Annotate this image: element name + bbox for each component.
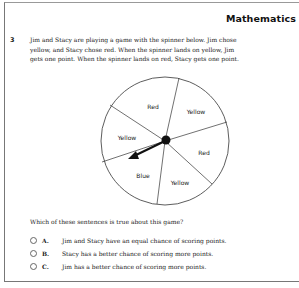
stem-line: Jim and Stacy are playing a game with th… xyxy=(30,35,290,45)
choice-text: Jim and Stacy have an equal chance of sc… xyxy=(62,237,226,244)
choice-text: Stacy has a better chance of scoring mor… xyxy=(62,250,213,257)
choice-letter: C. xyxy=(42,263,62,270)
subject-title: Mathematics xyxy=(226,13,296,24)
section-label: Yellow xyxy=(170,179,190,186)
question-number: 3 xyxy=(10,36,15,44)
section-label: Yellow xyxy=(186,108,206,115)
radio-icon[interactable] xyxy=(30,237,37,244)
question-prompt: Which of these sentences is true about t… xyxy=(30,218,183,225)
choice-text: Jim has a better chance of scoring more … xyxy=(62,263,206,270)
section-label: Blue xyxy=(136,172,150,179)
section-label: Red xyxy=(147,103,159,110)
choice-letter: A. xyxy=(42,237,62,244)
choice-letter: B. xyxy=(42,250,62,257)
question-stem: Jim and Stacy are playing a game with th… xyxy=(30,35,290,64)
spinner-diagram: Red Yellow Red Yellow Blue Yellow xyxy=(98,74,232,208)
choice-b[interactable]: B. Stacy has a better chance of scoring … xyxy=(30,250,213,257)
choice-c[interactable]: C. Jim has a better chance of scoring mo… xyxy=(30,263,206,270)
choice-a[interactable]: A. Jim and Stacy have an equal chance of… xyxy=(30,237,226,244)
radio-icon[interactable] xyxy=(30,263,37,270)
stem-line: yellow, and Stacy chose red. When the sp… xyxy=(30,45,290,55)
radio-icon[interactable] xyxy=(30,250,37,257)
stem-line: gets one point. When the spinner lands o… xyxy=(30,54,290,64)
section-label: Yellow xyxy=(117,134,137,141)
section-label: Red xyxy=(198,149,210,156)
